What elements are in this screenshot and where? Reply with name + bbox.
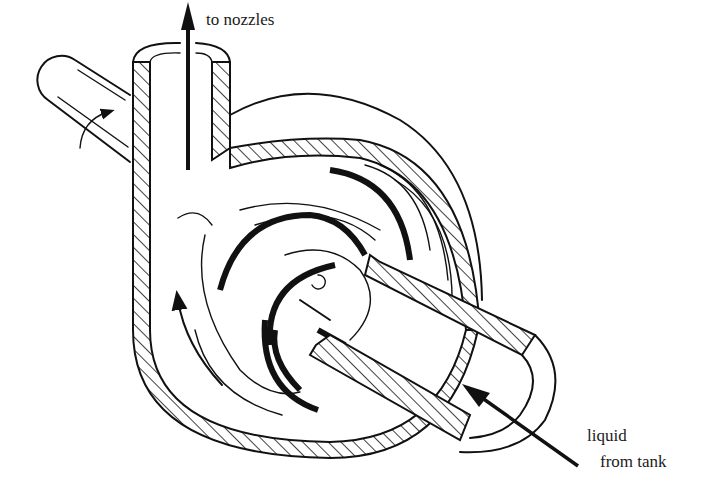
arrow-up-left-icon (462, 384, 490, 407)
centrifugal-pump-diagram (0, 0, 726, 491)
outlet-label: to nozzles (206, 10, 274, 30)
inlet-label-line2: from tank (600, 452, 667, 472)
outlet-flow-arrow (181, 2, 195, 170)
drive-shaft-housing (37, 56, 130, 162)
curved-arrow-icon (178, 300, 222, 385)
inlet-label-line1: liquid (587, 426, 627, 446)
inlet-flow-arrow (462, 384, 578, 466)
arrow-up-icon (181, 2, 195, 30)
